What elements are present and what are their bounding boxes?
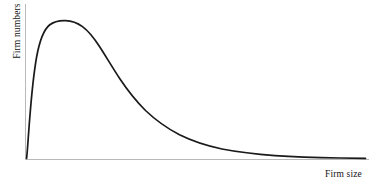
y-axis-label: Firm numbers bbox=[12, 0, 22, 64]
firm-size-distribution-figure: Firm numbers Firm size bbox=[0, 0, 369, 182]
distribution-plot bbox=[0, 0, 369, 182]
firm-size-distribution-curve bbox=[27, 21, 366, 159]
x-axis-label: Firm size bbox=[325, 169, 362, 179]
